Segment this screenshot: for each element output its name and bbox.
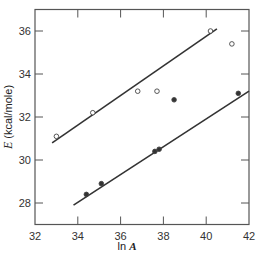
- filled-data-point: [99, 181, 104, 186]
- filled-data-point: [84, 192, 89, 197]
- y-tick-label: 32: [19, 111, 31, 123]
- y-tick-label: 28: [19, 197, 31, 209]
- x-axis-label: ln A: [118, 240, 137, 252]
- fit-line-1: [52, 29, 217, 143]
- y-axis-label: E (kcal/mole): [1, 85, 15, 150]
- y-tick-label: 34: [19, 68, 31, 80]
- open-data-point: [135, 89, 140, 94]
- y-tick-label: 30: [19, 154, 31, 166]
- x-tick-label: 32: [29, 230, 41, 242]
- filled-data-point: [236, 91, 241, 96]
- chart: 3234363840422830323436 ln A E (kcal/mole…: [0, 0, 260, 253]
- x-tick-label: 34: [72, 230, 84, 242]
- plot-frame: [35, 10, 249, 225]
- ticks: 3234363840422830323436: [19, 10, 255, 242]
- open-data-point: [208, 29, 213, 34]
- open-data-point: [230, 42, 235, 47]
- x-axis-label-symbol: A: [128, 240, 136, 252]
- fit-lines: [52, 29, 249, 205]
- x-tick-label: 38: [157, 230, 169, 242]
- open-data-point: [90, 110, 95, 115]
- filled-data-point: [157, 147, 162, 152]
- x-axis-label-prefix: ln: [118, 240, 130, 252]
- y-tick-label: 36: [19, 25, 31, 37]
- y-axis-label-units: (kcal/mole): [2, 85, 14, 142]
- filled-data-point: [172, 98, 177, 103]
- open-data-point: [54, 134, 59, 139]
- x-tick-label: 42: [243, 230, 255, 242]
- x-tick-label: 40: [200, 230, 212, 242]
- data-points: [54, 29, 241, 197]
- open-data-point: [155, 89, 160, 94]
